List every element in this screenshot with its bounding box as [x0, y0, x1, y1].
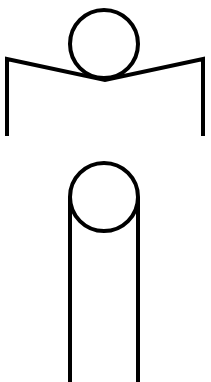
diagram-canvas — [0, 0, 211, 382]
figure-drawing — [0, 0, 211, 382]
upper-head-circle — [70, 10, 138, 78]
upper-arms-outline — [7, 59, 203, 136]
upper-figure — [7, 10, 203, 136]
lower-figure — [70, 163, 138, 382]
lower-head-circle — [70, 163, 138, 231]
